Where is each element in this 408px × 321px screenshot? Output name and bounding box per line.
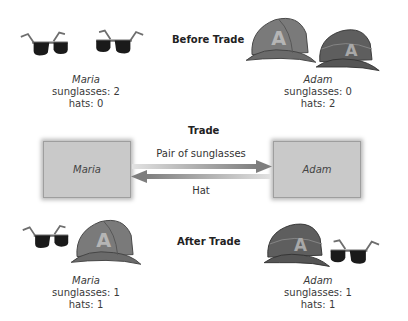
baseball-cap-icon — [306, 22, 384, 76]
adam-sunglasses-count: sunglasses: 1 — [268, 287, 368, 299]
sunglasses-icon — [82, 26, 146, 58]
adam-hats-count: hats: 2 — [268, 98, 368, 110]
maria-name: Maria — [40, 275, 132, 287]
adam-box: Adam — [273, 141, 361, 198]
trade-arrows — [130, 158, 273, 186]
baseball-cap-icon — [66, 214, 146, 272]
arrow-left-icon — [131, 170, 271, 183]
adam-name: Adam — [268, 275, 368, 287]
maria-box-label: Maria — [73, 164, 101, 175]
adam-name: Adam — [268, 74, 368, 86]
maria-before-summary: Maria sunglasses: 2 hats: 0 — [40, 74, 132, 110]
adam-hats-count: hats: 1 — [268, 299, 368, 311]
maria-sunglasses-count: sunglasses: 1 — [40, 287, 132, 299]
maria-name: Maria — [40, 74, 132, 86]
hat-trade-label: Hat — [180, 185, 222, 196]
adam-before-summary: Adam sunglasses: 0 hats: 2 — [268, 74, 368, 110]
arrow-right-icon — [132, 160, 272, 173]
sunglasses-icon — [316, 236, 382, 268]
adam-box-label: Adam — [302, 164, 331, 175]
trade-heading: Trade — [188, 125, 219, 136]
maria-hats-count: hats: 0 — [40, 98, 132, 110]
maria-hats-count: hats: 1 — [40, 299, 132, 311]
maria-box: Maria — [43, 141, 131, 198]
maria-sunglasses-count: sunglasses: 2 — [40, 86, 132, 98]
sunglasses-icon — [18, 28, 82, 60]
maria-after-summary: Maria sunglasses: 1 hats: 1 — [40, 275, 132, 311]
adam-after-summary: Adam sunglasses: 1 hats: 1 — [268, 275, 368, 311]
adam-sunglasses-count: sunglasses: 0 — [268, 86, 368, 98]
after-trade-heading: After Trade — [177, 236, 240, 247]
before-trade-heading: Before Trade — [172, 34, 244, 45]
